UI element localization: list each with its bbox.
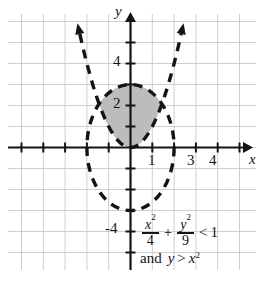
fraction-denominator: 4 xyxy=(144,234,157,249)
x-axis-label: x xyxy=(249,152,256,167)
fraction-y2-over-9: y2 9 xyxy=(177,216,194,248)
inequality-annotation: x2 4 + y2 9 < 1 and y > x2 xyxy=(140,216,218,266)
and-conjunction: and xyxy=(140,251,162,266)
y-axis-label: y xyxy=(115,4,122,19)
y-tick-label-4: 4 xyxy=(113,54,121,69)
fraction-numerator: x2 xyxy=(142,216,159,232)
inequality-graph-figure: y x 1 3 4 4 2 -4 x2 4 + y2 9 < 1 and y > xyxy=(0,0,266,282)
x-tick-label-4: 4 xyxy=(209,153,217,168)
fraction-denominator: 9 xyxy=(179,234,192,249)
inequality-line-1: x2 4 + y2 9 < 1 xyxy=(140,216,218,248)
parabola-rhs: x xyxy=(189,251,196,266)
x-tick-label-1: 1 xyxy=(148,153,156,168)
y-tick-label-2: 2 xyxy=(113,96,121,111)
fraction-numerator: y2 xyxy=(177,216,194,232)
x-tick-label-3: 3 xyxy=(187,153,195,168)
fraction-x2-over-4: x2 4 xyxy=(142,216,159,248)
greater-than-operator: > xyxy=(177,251,185,266)
parabola-lhs: y xyxy=(168,251,175,266)
plot-canvas xyxy=(0,0,266,282)
plus-operator: + xyxy=(164,225,172,240)
right-hand-side: 1 xyxy=(210,225,218,240)
less-than-operator: < xyxy=(199,225,207,240)
parabola-rhs-exponent: 2 xyxy=(195,251,200,260)
inequality-line-2: and y > x2 xyxy=(140,251,218,266)
y-tick-label-neg4: -4 xyxy=(105,221,118,236)
